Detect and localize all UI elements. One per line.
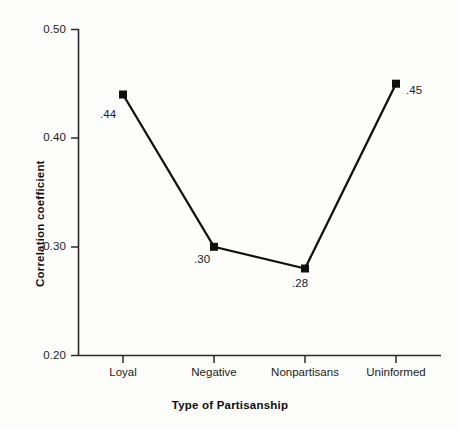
data-point-marker-nonpartisans — [301, 265, 309, 273]
data-label-loyal: .44 — [100, 108, 116, 120]
line-chart-plot — [0, 0, 460, 429]
data-series-line — [123, 84, 396, 269]
y-tick-label-0.50: 0.50 — [22, 23, 66, 35]
chart-figure: 0.50 0.40 0.30 0.20 Correlation coeffici… — [0, 0, 460, 429]
data-label-negative: .30 — [194, 253, 210, 265]
data-point-marker-loyal — [119, 91, 127, 99]
data-point-marker-negative — [210, 243, 218, 251]
x-tick-label-negative: Negative — [191, 366, 236, 378]
y-tick-label-0.40: 0.40 — [22, 131, 66, 143]
x-tick-label-uninformed: Uninformed — [366, 366, 425, 378]
y-axis-title: Correlation coefficient — [34, 160, 46, 287]
x-axis-title: Type of Partisanship — [0, 399, 460, 411]
y-tick-label-0.20: 0.20 — [22, 349, 66, 361]
x-tick-label-nonpartisans: Nonpartisans — [271, 366, 339, 378]
data-label-uninformed: .45 — [406, 84, 422, 96]
data-point-marker-uninformed — [392, 80, 400, 88]
x-tick-label-loyal: Loyal — [109, 366, 137, 378]
data-label-nonpartisans: .28 — [292, 277, 308, 289]
